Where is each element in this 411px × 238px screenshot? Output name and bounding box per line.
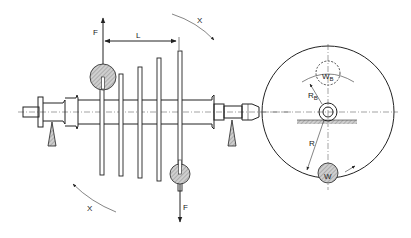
right-support <box>228 120 236 146</box>
length-label: L <box>136 31 141 40</box>
balance-radius-label: RB <box>308 91 318 101</box>
rotation-bottom-arrow <box>73 184 116 212</box>
disc-1 <box>100 78 104 175</box>
rim-rotation-arrow <box>345 166 355 172</box>
left-support <box>48 122 56 146</box>
rotor-diagram: F F L X X WB RB R W <box>0 0 411 238</box>
disc-4 <box>157 58 161 181</box>
rotation-top-label: X <box>197 16 203 25</box>
disc-3 <box>138 67 142 178</box>
rotation-bottom-label: X <box>87 204 93 213</box>
balance-weight-label: WB <box>322 72 334 82</box>
rotation-top-arrow <box>172 14 214 40</box>
radius-label: R <box>309 139 315 148</box>
force-top-label: F <box>93 28 98 37</box>
rotor-side-view: F F L X X <box>18 14 292 222</box>
force-bottom-label: F <box>183 203 188 212</box>
rotor-end-view: WB RB R W <box>262 44 398 190</box>
disc-2 <box>119 74 123 176</box>
weight-label: W <box>324 172 332 181</box>
